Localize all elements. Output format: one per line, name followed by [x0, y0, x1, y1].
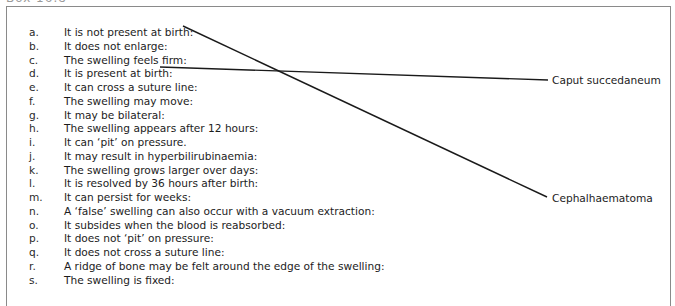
item-letter: f. [29, 95, 35, 109]
item-text: It is present at birth: [64, 67, 173, 81]
item-text: The swelling may move: [64, 95, 193, 109]
item-letter: e. [29, 81, 39, 95]
item-letter: o. [29, 219, 39, 233]
item-text: It does not cross a suture line: [64, 246, 224, 260]
item-letter: d. [29, 67, 39, 81]
item-text: A ‘false’ swelling can also occur with a… [64, 205, 375, 219]
item-text: It does not ‘pit’ on pressure: [64, 232, 214, 246]
item-letter: q. [29, 246, 39, 260]
item-letter: j. [29, 150, 35, 164]
item-letter: r. [29, 260, 36, 274]
target-caput-succedaneum[interactable]: Caput succedaneum [552, 74, 661, 86]
item-letter: s. [29, 274, 38, 288]
item-letter: b. [29, 40, 39, 54]
item-text: It is resolved by 36 hours after birth: [64, 177, 258, 191]
heading-fragment: Box 16.8 [6, 0, 67, 5]
item-text: It may result in hyperbilirubinaemia: [64, 150, 257, 164]
item-text: The swelling is fixed: [64, 274, 175, 288]
target-cephalhaematoma[interactable]: Cephalhaematoma [552, 192, 653, 204]
item-text: The swelling appears after 12 hours: [64, 122, 258, 136]
item-text: The swelling grows larger over days: [64, 164, 258, 178]
item-text: It can ‘pit’ on pressure. [64, 136, 187, 150]
item-letter: m. [29, 191, 43, 205]
item-text: It is not present at birth: [64, 26, 193, 40]
item-text: It can cross a suture line: [64, 81, 198, 95]
item-letter: h. [29, 122, 39, 136]
item-text: A ridge of bone may be felt around the e… [64, 260, 385, 274]
item-letter: l. [29, 177, 35, 191]
exercise-box: a.It is not present at birth: b.It does … [6, 6, 671, 306]
item-letter: p. [29, 232, 39, 246]
item-letter: g. [29, 109, 39, 123]
item-letter: k. [29, 164, 39, 178]
item-letter: n. [29, 205, 39, 219]
item-text: It may be bilateral: [64, 109, 165, 123]
item-text: It can persist for weeks: [64, 191, 191, 205]
item-text: The swelling feels firm: [64, 54, 187, 68]
item-text: It subsides when the blood is reabsorbed… [64, 219, 285, 233]
item-letter: c. [29, 54, 38, 68]
item-letter: a. [29, 26, 39, 40]
item-text: It does not enlarge: [64, 40, 168, 54]
item-letter: i. [29, 136, 35, 150]
